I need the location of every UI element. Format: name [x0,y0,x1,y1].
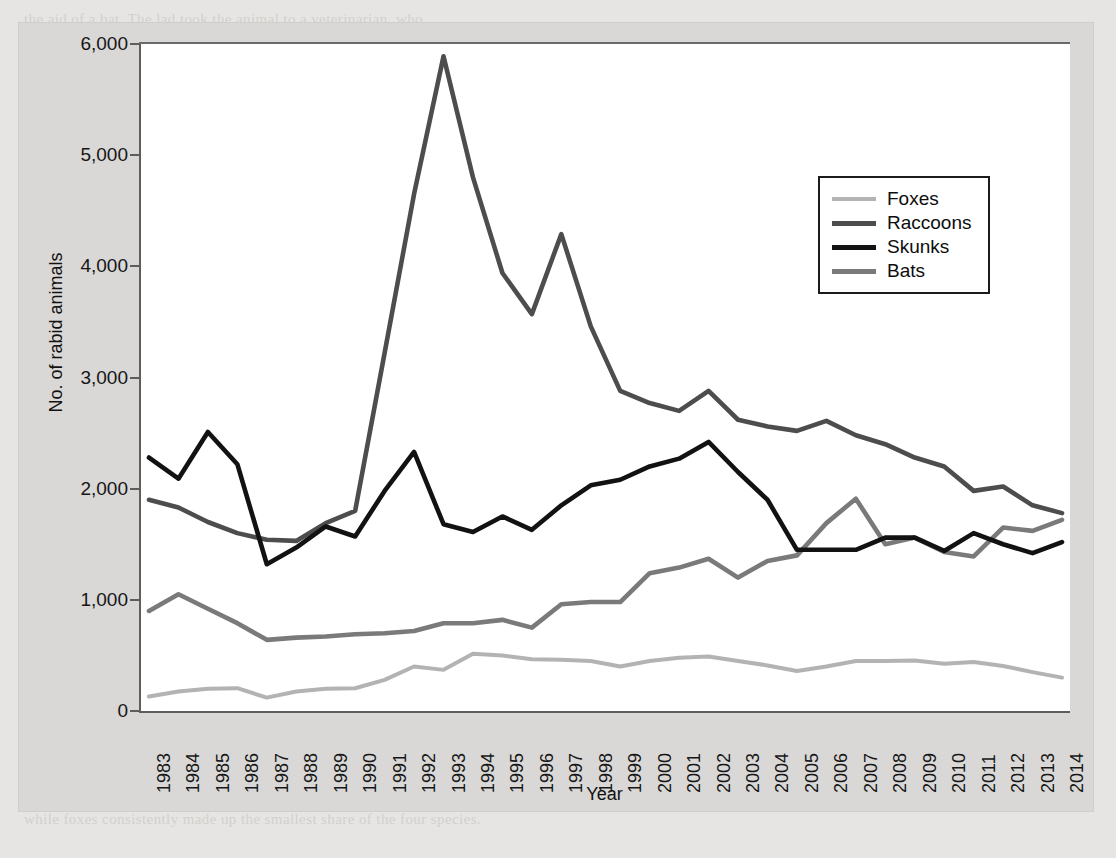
y-tick-mark [130,599,139,601]
line-chart-canvas [141,44,1070,711]
y-tick-mark [130,488,139,490]
legend-item-label: Skunks [887,236,949,258]
y-tick-label: 1,000 [80,589,128,611]
x-tick-label: 2014 [1067,753,1088,793]
chart-legend: FoxesRaccoonsSkunksBats [818,176,990,294]
y-tick-mark [130,265,139,267]
legend-color-swatch [832,197,876,201]
y-tick-mark [130,377,139,379]
y-axis-title: No. of rabid animals [46,203,67,463]
y-tick-label: 2,000 [80,478,128,500]
series-line-bats [149,499,1062,640]
y-tick-label: 5,000 [80,144,128,166]
legend-item-label: Raccoons [887,212,972,234]
y-tick-label: 4,000 [80,255,128,277]
series-line-foxes [149,654,1062,698]
legend-color-swatch [832,221,876,226]
y-tick-mark [130,710,139,712]
x-axis-title: Year [139,784,1070,805]
legend-item-raccoons[interactable]: Raccoons [832,211,972,235]
legend-item-label: Foxes [887,188,939,210]
y-tick-mark [130,154,139,156]
legend-color-swatch [832,269,876,274]
y-axis-ticks: 01,0002,0003,0004,0005,0006,000 [18,44,128,711]
series-line-raccoons [149,56,1062,541]
figure-panel: 01,0002,0003,0004,0005,0006,000 No. of r… [18,22,1094,812]
legend-item-label: Bats [887,260,925,282]
legend-color-swatch [832,245,876,250]
scanned-page-background: the aid of a bat. The lad took the anima… [0,0,1116,858]
legend-item-skunks[interactable]: Skunks [832,235,972,259]
y-tick-label: 6,000 [80,33,128,55]
y-tick-mark [130,43,139,45]
legend-item-foxes[interactable]: Foxes [832,187,972,211]
y-tick-label: 3,000 [80,367,128,389]
y-tick-label: 0 [117,700,128,722]
plot-area [139,44,1070,713]
legend-item-bats[interactable]: Bats [832,259,972,283]
series-line-skunks [149,432,1062,564]
